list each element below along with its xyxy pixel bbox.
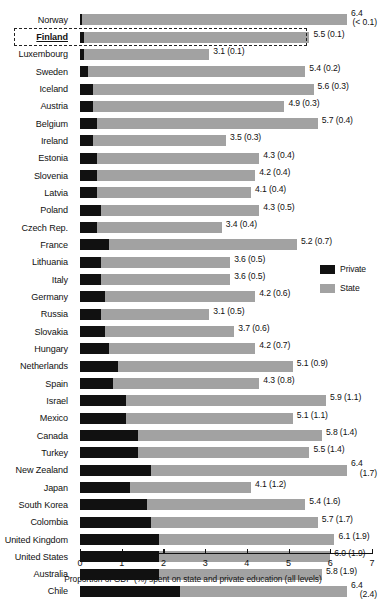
bar-value-label: 5.1 (1.1): [297, 411, 328, 421]
bar-value-label: 4.9 (0.3): [288, 99, 319, 109]
bar-area: 4.1 (0.4): [74, 184, 386, 201]
bar-row: Hungary4.2 (0.7): [0, 340, 386, 357]
stacked-bar: [80, 84, 314, 95]
stacked-bar: [80, 465, 347, 476]
bar-segment-state: [126, 413, 293, 424]
stacked-bar: [80, 32, 309, 43]
x-axis-tick: [80, 549, 81, 554]
bar-segment-state: [84, 32, 309, 43]
bar-row: Norway6.4(< 0.1): [0, 11, 386, 28]
bar-segment-state: [109, 343, 255, 354]
bar-segment-state: [97, 222, 222, 233]
bar-row-label: Lithuania: [0, 257, 74, 267]
x-axis-tick-label: 1: [119, 558, 124, 568]
bar-segment-private: [80, 430, 138, 441]
bar-segment-private: [80, 447, 138, 458]
bar-row-label: Austria: [0, 101, 74, 111]
bar-row-label: Ireland: [0, 136, 74, 146]
bar-segment-private: [80, 413, 126, 424]
bar-row-label: France: [0, 240, 74, 250]
bar-value-label: 5.9 (1.1): [330, 393, 361, 403]
bar-value-label: 4.3 (0.8): [263, 376, 294, 386]
bar-segment-private: [80, 205, 101, 216]
bar-row: Czech Rep.3.4 (0.4): [0, 219, 386, 236]
bar-segment-state: [82, 14, 347, 25]
bar-row: France5.2 (0.7): [0, 236, 386, 253]
x-axis-tick: [247, 549, 248, 554]
bar-value-label: 3.5 (0.3): [230, 133, 261, 143]
bar-segment-state: [109, 239, 297, 250]
x-axis-tick-label: 2: [161, 558, 166, 568]
bar-row-label: Slovakia: [0, 327, 74, 337]
bar-area: 5.7 (0.4): [74, 115, 386, 132]
bar-row-label: Italy: [0, 275, 74, 285]
bar-row-label: Germany: [0, 292, 74, 302]
bar-area: 5.2 (0.7): [74, 236, 386, 253]
bar-segment-private: [80, 239, 109, 250]
bar-segment-state: [126, 395, 326, 406]
education-gdp-bar-chart: Norway6.4(< 0.1)Finland5.5 (0.1)Luxembou…: [0, 0, 386, 601]
bar-area: 3.4 (0.4): [74, 219, 386, 236]
bar-area: 4.3 (0.4): [74, 150, 386, 167]
bar-value-label: 6.4(1.7): [351, 459, 377, 478]
bar-value-label: 6.1 (1.9): [338, 532, 369, 542]
bar-segment-state: [151, 517, 318, 528]
stacked-bar: [80, 257, 230, 268]
stacked-bar: [80, 413, 293, 424]
bar-row-label: Finland: [0, 32, 74, 42]
bar-segment-state: [93, 84, 314, 95]
bar-value-label: 4.3 (0.5): [263, 203, 294, 213]
bar-value-private: (1.7): [351, 469, 377, 479]
bar-row-label: Luxembourg: [0, 49, 74, 59]
bar-row: Canada5.8 (1.4): [0, 427, 386, 444]
bar-row-label: Poland: [0, 205, 74, 215]
x-axis-tick-label: 3: [203, 558, 208, 568]
bar-value-label: 5.4 (1.6): [309, 497, 340, 507]
x-axis-tick-label: 6: [328, 558, 333, 568]
bar-segment-state: [101, 205, 260, 216]
bar-segment-state: [101, 274, 230, 285]
stacked-bar: [80, 187, 251, 198]
bar-row: Colombia5.7 (1.7): [0, 514, 386, 531]
bar-segment-state: [118, 361, 293, 372]
bar-value-label: 5.2 (0.7): [301, 237, 332, 247]
stacked-bar: [80, 378, 259, 389]
bar-segment-private: [80, 378, 113, 389]
bar-row-label: United Kingdom: [0, 535, 74, 545]
stacked-bar: [80, 517, 318, 528]
bar-area: 5.9 (1.1): [74, 392, 386, 409]
x-axis-tick-label: 5: [286, 558, 291, 568]
bar-value-label: 3.7 (0.6): [238, 324, 269, 334]
bar-row-label: Latvia: [0, 188, 74, 198]
bar-row: Latvia4.1 (0.4): [0, 184, 386, 201]
bar-area: 5.5 (0.1): [74, 28, 386, 45]
bar-row: Sweden5.4 (0.2): [0, 63, 386, 80]
bar-segment-state: [97, 118, 318, 129]
bar-segment-state: [105, 291, 255, 302]
stacked-bar: [80, 205, 259, 216]
bar-segment-private: [80, 517, 151, 528]
stacked-bar: [80, 101, 284, 112]
bar-row-label: Czech Rep.: [0, 223, 74, 233]
bar-segment-state: [130, 482, 251, 493]
bar-row: South Korea5.4 (1.6): [0, 496, 386, 513]
bar-segment-state: [93, 101, 285, 112]
x-axis-line: [80, 553, 372, 554]
bar-value-label: 5.6 (0.3): [318, 82, 349, 92]
bar-area: 5.4 (1.6): [74, 496, 386, 513]
bar-area: 5.5 (1.4): [74, 444, 386, 461]
x-axis-tick-label: 4: [244, 558, 249, 568]
stacked-bar: [80, 135, 226, 146]
bar-segment-private: [80, 118, 97, 129]
bar-area: 5.7 (1.7): [74, 514, 386, 531]
bar-value-label: 3.1 (0.5): [213, 307, 244, 317]
bar-value-label: 3.1 (0.1): [213, 47, 244, 57]
bar-area: 5.1 (1.1): [74, 410, 386, 427]
x-axis-tick: [122, 549, 123, 554]
bar-value-label: 3.4 (0.4): [226, 220, 257, 230]
bar-row-label: South Korea: [0, 500, 74, 510]
stacked-bar: [80, 170, 255, 181]
bar-segment-state: [101, 309, 209, 320]
bar-segment-state: [93, 135, 226, 146]
bar-value-label: 4.1 (0.4): [255, 185, 286, 195]
